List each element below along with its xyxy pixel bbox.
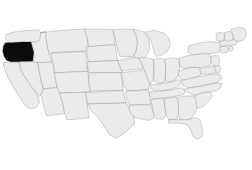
state-vt[interactable] bbox=[217, 32, 225, 42]
state-or[interactable] bbox=[3, 42, 34, 62]
state-ct[interactable] bbox=[220, 46, 229, 53]
state-co[interactable] bbox=[54, 71, 90, 93]
state-ok[interactable] bbox=[86, 90, 126, 104]
us-state-map-figure bbox=[0, 0, 252, 170]
state-wy[interactable] bbox=[52, 52, 88, 73]
state-sd[interactable] bbox=[87, 45, 118, 62]
state-ia[interactable] bbox=[118, 58, 143, 71]
state-ne[interactable] bbox=[88, 60, 123, 72]
state-de[interactable] bbox=[215, 65, 220, 72]
us-map-svg bbox=[0, 0, 252, 170]
state-nd[interactable] bbox=[84, 29, 115, 47]
state-ar[interactable] bbox=[126, 90, 151, 105]
state-ks[interactable] bbox=[89, 73, 123, 91]
state-al[interactable] bbox=[165, 97, 179, 119]
state-nj[interactable] bbox=[211, 55, 219, 66]
state-in[interactable] bbox=[154, 58, 166, 83]
